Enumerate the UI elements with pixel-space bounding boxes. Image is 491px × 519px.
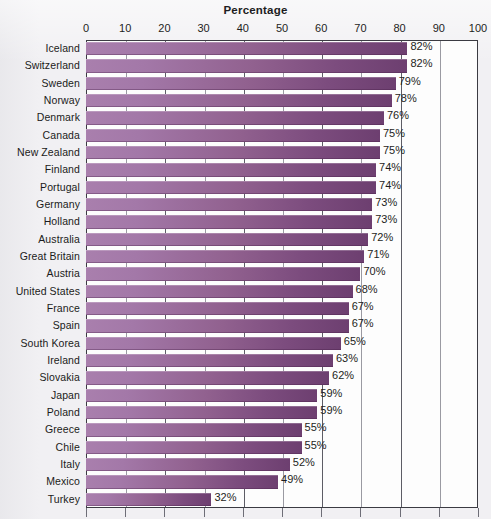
bar-fill — [86, 493, 211, 506]
bar-value-label: 65% — [341, 335, 366, 348]
bar-value-label: 79% — [396, 75, 421, 88]
bar-fill — [86, 423, 302, 436]
bar-row: United States68% — [0, 283, 491, 300]
bar-fill — [86, 59, 407, 72]
x-axis-bottom-ticks — [86, 508, 479, 519]
bar-row: Germany73% — [0, 196, 491, 213]
x-tick-label: 30 — [197, 22, 209, 34]
bar-rows: Iceland82%Switzerland82%Sweden79%Norway7… — [0, 40, 491, 508]
bar-fill — [86, 111, 384, 124]
bar — [86, 493, 211, 506]
axis-tick — [164, 508, 165, 517]
bar-value-label: 76% — [384, 109, 409, 122]
bar-row: Slovakia62% — [0, 369, 491, 386]
bar-fill — [86, 94, 392, 107]
bar — [86, 233, 368, 246]
bar — [86, 111, 384, 124]
bar-fill — [86, 475, 278, 488]
category-label: Turkey — [0, 491, 80, 508]
axis-tick — [125, 508, 126, 517]
bar-fill — [86, 198, 372, 211]
axis-tick — [282, 508, 283, 517]
bar-value-label: 74% — [376, 179, 401, 192]
category-label: Italy — [0, 456, 80, 473]
axis-tick — [86, 508, 87, 517]
axis-tick — [439, 508, 440, 517]
bar-row: Great Britain71% — [0, 248, 491, 265]
axis-tick — [400, 508, 401, 517]
bar-row: Canada75% — [0, 127, 491, 144]
bar-row: Portugal74% — [0, 179, 491, 196]
category-label: Ireland — [0, 352, 80, 369]
chart-page: Percentage 0102030405060708090100 Icelan… — [0, 0, 491, 519]
bar-value-label: 59% — [317, 404, 342, 417]
category-label: Holland — [0, 213, 80, 230]
bar-row: Sweden79% — [0, 75, 491, 92]
bar — [86, 77, 396, 90]
category-label: Austria — [0, 265, 80, 282]
bar-row: Mexico49% — [0, 473, 491, 490]
bar — [86, 441, 302, 454]
bar — [86, 42, 407, 55]
bar — [86, 389, 317, 402]
category-label: Japan — [0, 387, 80, 404]
bar-row: Finland74% — [0, 161, 491, 178]
bar-fill — [86, 163, 376, 176]
bar-value-label: 78% — [392, 92, 417, 105]
bar — [86, 59, 407, 72]
x-tick-label: 40 — [237, 22, 249, 34]
bar-value-label: 55% — [302, 439, 327, 452]
bar-value-label: 82% — [407, 40, 432, 53]
bar-fill — [86, 406, 317, 419]
bar-value-label: 59% — [317, 387, 342, 400]
bar-fill — [86, 250, 364, 263]
bar-fill — [86, 267, 360, 280]
category-label: Australia — [0, 231, 80, 248]
category-label: Poland — [0, 404, 80, 421]
bar-row: Japan59% — [0, 387, 491, 404]
bar — [86, 285, 353, 298]
bar-fill — [86, 233, 368, 246]
bar-row: Chile55% — [0, 439, 491, 456]
bar — [86, 371, 329, 384]
bar-value-label: 32% — [211, 491, 236, 504]
x-tick-label: 70 — [354, 22, 366, 34]
category-label: Portugal — [0, 179, 80, 196]
bar-row: Poland59% — [0, 404, 491, 421]
x-axis-tick-labels: 0102030405060708090100 — [0, 22, 491, 38]
x-tick-label: 90 — [433, 22, 445, 34]
bar-value-label: 67% — [349, 317, 374, 330]
bar-value-label: 63% — [333, 352, 358, 365]
x-tick-label: 60 — [315, 22, 327, 34]
bar-fill — [86, 371, 329, 384]
x-tick-label: 20 — [158, 22, 170, 34]
bar-row: Holland73% — [0, 213, 491, 230]
category-label: Greece — [0, 421, 80, 438]
bar-row: France67% — [0, 300, 491, 317]
axis-tick — [204, 508, 205, 517]
bar-row: New Zealand75% — [0, 144, 491, 161]
bar-value-label: 55% — [302, 421, 327, 434]
bar-value-label: 75% — [380, 127, 405, 140]
bar-value-label: 62% — [329, 369, 354, 382]
bar-row: Australia72% — [0, 231, 491, 248]
category-label: Iceland — [0, 40, 80, 57]
bar — [86, 215, 372, 228]
category-label: Chile — [0, 439, 80, 456]
bar — [86, 423, 302, 436]
category-label: South Korea — [0, 335, 80, 352]
bar-row: South Korea65% — [0, 335, 491, 352]
axis-tick — [321, 508, 322, 517]
bar-row: Iceland82% — [0, 40, 491, 57]
bar-fill — [86, 77, 396, 90]
bar — [86, 458, 290, 471]
bar-value-label: 67% — [349, 300, 374, 313]
category-label: France — [0, 300, 80, 317]
bar-value-label: 73% — [372, 213, 397, 226]
bar-row: Norway78% — [0, 92, 491, 109]
bar-fill — [86, 129, 380, 142]
bar-row: Switzerland82% — [0, 57, 491, 74]
bar-fill — [86, 215, 372, 228]
bar-row: Austria70% — [0, 265, 491, 282]
bar-row: Spain67% — [0, 317, 491, 334]
